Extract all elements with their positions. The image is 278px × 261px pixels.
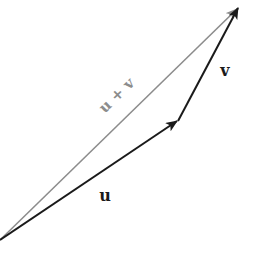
vector-u [0,121,177,240]
vector-u-plus-v [0,9,237,240]
label-u: u [99,186,111,205]
vector-addition-diagram: u + v v u [0,0,278,261]
label-v: v [219,61,230,80]
